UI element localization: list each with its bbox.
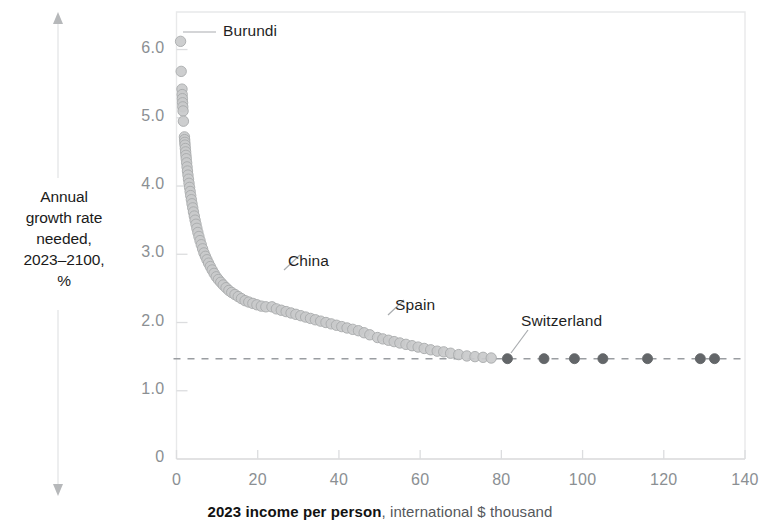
x-tick-label-5: 100: [553, 471, 613, 489]
y-axis-title-line-2: needed,: [0, 228, 128, 249]
annotation-label-switzerland: Switzerland: [521, 312, 602, 330]
x-axis-title: 2023 income per person, international $ …: [0, 503, 760, 520]
y-axis-title: Annualgrowth rateneeded,2023–2100,%: [0, 186, 128, 291]
y-tick-label-4: 4.0: [117, 175, 165, 193]
data-point: [176, 66, 186, 76]
data-point: [643, 354, 653, 364]
y-axis-title-line-0: Annual: [0, 186, 128, 207]
annotation-label-china: China: [288, 252, 329, 270]
x-tick-label-2: 40: [309, 471, 369, 489]
data-point: [178, 106, 188, 116]
y-axis-title-line-4: %: [0, 270, 128, 291]
data-point: [695, 354, 705, 364]
y-tick-label-6: 6.0: [117, 39, 165, 57]
x-tick-label-4: 80: [471, 471, 531, 489]
x-tick-label-1: 20: [228, 471, 288, 489]
plot-frame: [177, 12, 746, 459]
data-points: [175, 36, 719, 364]
annotation-label-burundi: Burundi: [223, 22, 277, 40]
y-tick-label-3: 3.0: [117, 243, 165, 261]
data-point: [502, 354, 512, 364]
x-tick-label-0: 0: [147, 471, 207, 489]
arrow-up-icon: [53, 12, 63, 24]
x-tick-label-3: 60: [390, 471, 450, 489]
x-axis-title-rest: , international $ thousand: [381, 503, 552, 520]
data-point: [175, 36, 185, 46]
y-tick-label-0: 0: [117, 448, 165, 466]
y-axis-title-line-1: growth rate: [0, 207, 128, 228]
x-axis-title-bold: 2023 income per person: [207, 503, 381, 520]
x-tick-label-7: 140: [715, 471, 760, 489]
y-axis-title-line-3: 2023–2100,: [0, 249, 128, 270]
data-point: [486, 353, 496, 363]
annotation-label-spain: Spain: [395, 296, 435, 314]
data-point: [569, 354, 579, 364]
x-tick-label-6: 120: [634, 471, 694, 489]
y-tick-label-2: 2.0: [117, 312, 165, 330]
data-point: [178, 116, 188, 126]
y-tick-label-5: 5.0: [117, 107, 165, 125]
y-tick-label-1: 1.0: [117, 380, 165, 398]
data-point: [598, 354, 608, 364]
annotation-leader-3: [511, 330, 528, 353]
data-point: [710, 354, 720, 364]
arrow-down-icon: [53, 484, 63, 496]
data-point: [539, 354, 549, 364]
chart-stage: Annualgrowth rateneeded,2023–2100,% 2023…: [0, 0, 760, 529]
